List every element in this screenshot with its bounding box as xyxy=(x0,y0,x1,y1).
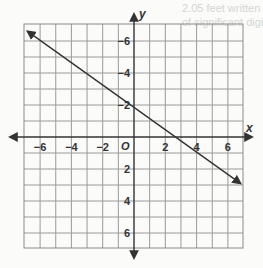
svg-text:4: 4 xyxy=(124,195,131,207)
svg-text:−2: −2 xyxy=(117,99,130,111)
origin-label: O xyxy=(121,140,130,152)
svg-text:4: 4 xyxy=(194,141,201,153)
svg-text:2: 2 xyxy=(124,163,130,175)
svg-text:−6: −6 xyxy=(34,141,47,153)
x-axis-label: x xyxy=(245,121,254,135)
svg-text:−2: −2 xyxy=(96,141,109,153)
svg-text:−4: −4 xyxy=(65,141,78,153)
y-axis-label: y xyxy=(138,7,147,21)
svg-text:6: 6 xyxy=(225,141,231,153)
coordinate-graph: −6−4−2246642−2−4−6 x y O xyxy=(0,0,263,268)
svg-text:−4: −4 xyxy=(117,67,130,79)
svg-text:6: 6 xyxy=(124,227,130,239)
svg-text:2: 2 xyxy=(162,141,168,153)
svg-text:−6: −6 xyxy=(117,35,130,47)
